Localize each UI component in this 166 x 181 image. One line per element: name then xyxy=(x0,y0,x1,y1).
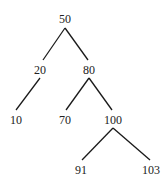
tree-edge-n100-n103 xyxy=(113,128,150,160)
tree-node-70: 70 xyxy=(59,114,71,126)
tree-node-20: 20 xyxy=(34,64,46,76)
tree-edge-n50-n80 xyxy=(65,28,88,60)
tree-node-10: 10 xyxy=(10,114,22,126)
tree-edge-n80-n100 xyxy=(89,78,112,110)
tree-edge-n50-n20 xyxy=(43,28,65,60)
tree-node-100: 100 xyxy=(104,114,122,126)
tree-node-91: 91 xyxy=(75,164,87,176)
binary-tree-diagram: 502080107010091103 xyxy=(0,0,166,181)
tree-node-103: 103 xyxy=(142,164,160,176)
tree-edges xyxy=(0,0,166,181)
tree-edge-n100-n91 xyxy=(82,128,113,160)
tree-node-50: 50 xyxy=(59,13,71,25)
tree-edge-n80-n70 xyxy=(66,78,89,110)
tree-node-80: 80 xyxy=(83,64,95,76)
tree-edge-n20-n10 xyxy=(16,78,40,110)
